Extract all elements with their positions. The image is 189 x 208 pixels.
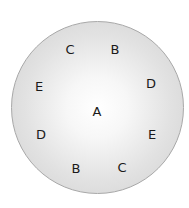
label-e-left: E bbox=[35, 80, 43, 93]
label-c-bottom: C bbox=[117, 161, 126, 174]
label-d-left: D bbox=[36, 128, 46, 141]
label-e-right: E bbox=[148, 128, 156, 141]
label-b-top: B bbox=[111, 43, 120, 56]
label-c-top: C bbox=[65, 43, 74, 56]
label-a-center: A bbox=[93, 105, 102, 118]
label-d-right: D bbox=[146, 77, 156, 90]
label-b-bottom: B bbox=[72, 162, 81, 175]
